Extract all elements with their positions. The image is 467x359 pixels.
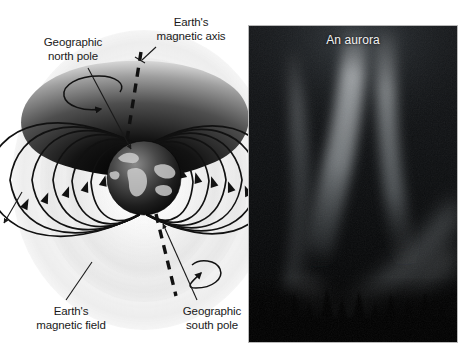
earth-globe	[107, 141, 181, 215]
aurora-photo-canvas	[249, 26, 457, 342]
figure-container: An aurora Geographic north pole Earth's …	[0, 0, 467, 359]
aurora-photo-title: An aurora	[249, 33, 457, 47]
aurora-photograph: An aurora	[249, 26, 457, 342]
